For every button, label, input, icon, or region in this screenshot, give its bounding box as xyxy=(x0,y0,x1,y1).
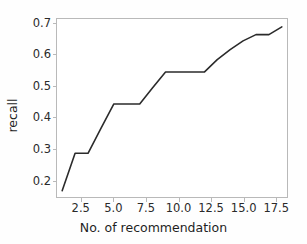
y-tick-label: 0.3 xyxy=(33,142,51,156)
x-tick-mark xyxy=(244,198,245,202)
plot-area xyxy=(56,18,288,198)
y-tick-label: 0.6 xyxy=(33,47,51,61)
x-axis-tick-labels: 2.55.07.510.012.515.017.5 xyxy=(0,201,307,221)
y-tick-mark xyxy=(53,86,57,87)
y-tick-mark xyxy=(53,149,57,150)
x-axis-label: No. of recommendation xyxy=(0,220,307,235)
y-tick-mark xyxy=(53,23,57,24)
x-tick-label: 2.5 xyxy=(72,201,90,215)
y-axis-label: recall xyxy=(5,80,20,152)
x-tick-label: 15.0 xyxy=(231,201,257,215)
y-tick-mark xyxy=(53,181,57,182)
x-tick-label: 10.0 xyxy=(166,201,192,215)
recall-line-series xyxy=(57,19,287,197)
y-tick-label: 0.7 xyxy=(33,16,51,30)
x-tick-mark xyxy=(179,198,180,202)
chart-figure: 0.20.30.40.50.60.7 2.55.07.510.012.515.0… xyxy=(0,0,307,244)
x-tick-mark xyxy=(211,198,212,202)
x-tick-label: 12.5 xyxy=(198,201,224,215)
x-tick-label: 5.0 xyxy=(104,201,122,215)
y-tick-label: 0.2 xyxy=(33,174,51,188)
recall-curve xyxy=(62,27,282,191)
y-tick-mark xyxy=(53,54,57,55)
x-tick-mark xyxy=(113,198,114,202)
y-tick-label: 0.4 xyxy=(33,110,51,124)
y-tick-label: 0.5 xyxy=(33,79,51,93)
x-tick-mark xyxy=(81,198,82,202)
y-tick-mark xyxy=(53,117,57,118)
x-tick-mark xyxy=(146,198,147,202)
x-tick-mark xyxy=(276,198,277,202)
x-tick-label: 7.5 xyxy=(137,201,155,215)
x-tick-label: 17.5 xyxy=(263,201,289,215)
